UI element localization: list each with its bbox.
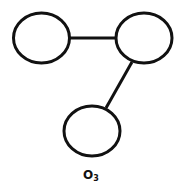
atom-right <box>116 13 172 63</box>
molecule-label: O3 <box>0 168 182 186</box>
label-base: O <box>83 168 93 182</box>
label-subscript: 3 <box>93 174 99 183</box>
molecule-diagram <box>0 0 182 190</box>
bond-right-bottom <box>106 62 132 108</box>
atom-left <box>14 13 70 63</box>
atom-bottom <box>64 106 120 156</box>
